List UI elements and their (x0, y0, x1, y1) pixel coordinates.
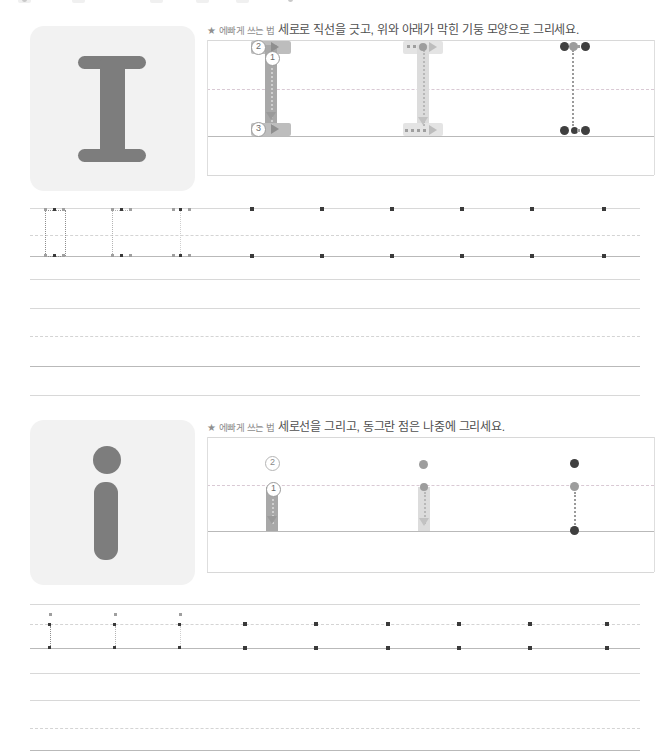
star-icon: ★ (207, 25, 216, 36)
top-clipped-row (0, 0, 660, 11)
instruction-label-uppercase: 에빠게 쓰는 법 (219, 25, 275, 36)
guide-dot (560, 126, 569, 135)
stroke-arrow-right-bottom (271, 124, 279, 134)
stroke-arrow-right-bottom (429, 125, 437, 135)
stroke-number-3: 3 (251, 122, 266, 137)
instruction-text-lowercase: 세로선을 그리고, 동그란 점은 나중에 그리세요. (278, 420, 505, 434)
instruction-label-lowercase: 에빠게 쓰는 법 (219, 422, 275, 433)
stroke-number-2: 2 (265, 456, 280, 471)
stroke-arrow-down (419, 518, 429, 526)
demo-stave-baseline-1 (207, 136, 654, 137)
worksheet-page: I ★에빠게 쓰는 법 세로로 직선을 긋고, 위와 아래가 막힌 기둥 모양으… (0, 0, 660, 752)
demo-stave-baseline-2 (207, 531, 654, 532)
stroke-arrow-down (267, 516, 277, 524)
star-icon: ★ (207, 422, 216, 433)
instruction-text-uppercase: 세로로 직선을 긋고, 위와 아래가 막힌 기둥 모양으로 그리세요. (278, 23, 579, 37)
letter-tile-uppercase: I (30, 26, 195, 191)
stroke-number-2: 2 (251, 40, 266, 55)
stroke-arrow-down (266, 112, 276, 120)
stroke-number-1: 1 (265, 51, 280, 66)
stroke-arrow-down (418, 117, 428, 125)
demo-stave-bottom-line-1 (207, 175, 654, 176)
demo-stave-bottom-line-2 (207, 572, 654, 573)
demo-stave-top-line-2 (207, 437, 654, 438)
guide-dot (581, 42, 590, 51)
instruction-uppercase: ★에빠게 쓰는 법 세로로 직선을 긋고, 위와 아래가 막힌 기둥 모양으로 … (207, 20, 579, 37)
guide-dot (570, 459, 579, 468)
letter-tile-lowercase: i (30, 420, 195, 585)
guide-dot (581, 126, 590, 135)
guide-dot (420, 483, 428, 491)
stroke-number-1: 1 (266, 482, 281, 497)
stroke-arrow-right-top (429, 42, 437, 52)
instruction-lowercase: ★에빠게 쓰는 법 세로선을 그리고, 동그란 점은 나중에 그리세요. (207, 417, 505, 434)
guide-dot (560, 42, 569, 51)
guide-dot (570, 526, 579, 535)
guide-dot (570, 482, 579, 491)
guide-dot (419, 460, 428, 469)
